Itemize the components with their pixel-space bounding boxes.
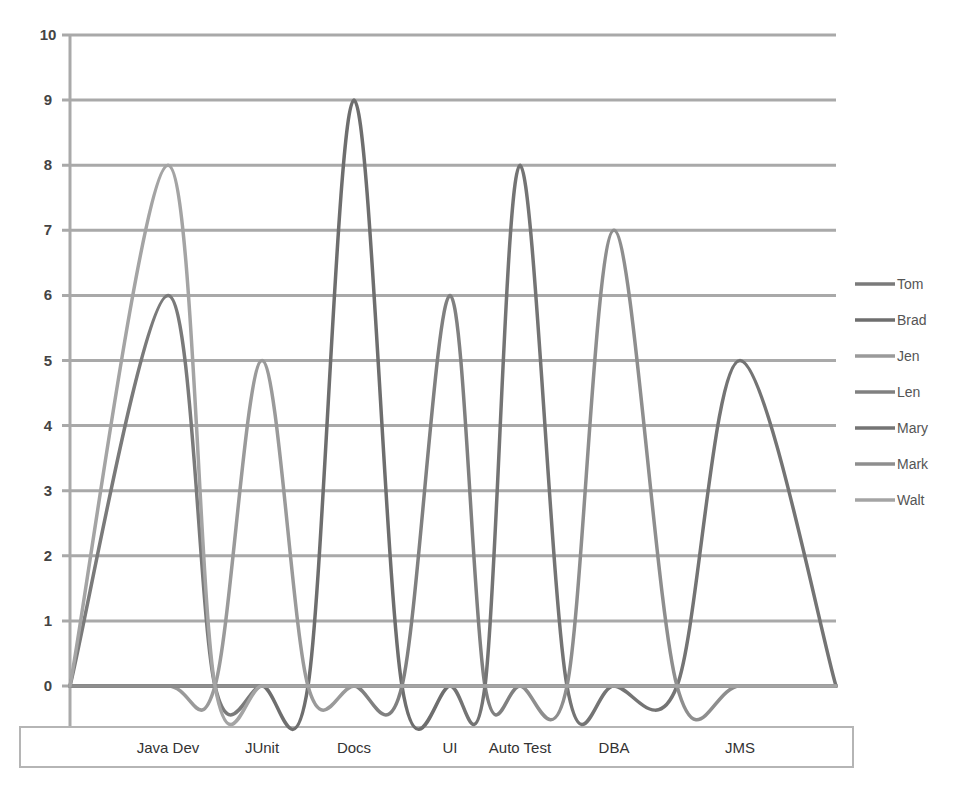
legend-label: Mary <box>897 420 928 436</box>
y-tick-label: 9 <box>44 91 52 108</box>
series-line-walt <box>70 165 836 724</box>
y-tick-label: 0 <box>44 677 52 694</box>
y-tick-label: 2 <box>44 547 52 564</box>
y-tick-label: 8 <box>44 156 52 173</box>
x-tick-label: Docs <box>337 739 371 756</box>
x-tick-label: JMS <box>725 739 755 756</box>
y-tick-label: 6 <box>44 286 52 303</box>
x-tick-label: Java Dev <box>137 739 200 756</box>
legend-label: Tom <box>897 276 923 292</box>
x-tick-label: JUnit <box>245 739 280 756</box>
legend-label: Jen <box>897 348 920 364</box>
series-lines <box>70 100 836 729</box>
series-line-tom <box>70 295 836 715</box>
x-tick-label: UI <box>443 739 458 756</box>
legend-item-walt: Walt <box>855 492 925 508</box>
line-chart: 012345678910 Java DevJUnitDocsUIAuto Tes… <box>0 0 963 794</box>
legend-item-brad: Brad <box>855 312 927 328</box>
y-axis-ticks: 012345678910 <box>40 26 57 694</box>
legend: TomBradJenLenMaryMarkWalt <box>855 276 929 508</box>
legend-label: Walt <box>897 492 925 508</box>
x-tick-label: Auto Test <box>489 739 552 756</box>
y-tick-label: 7 <box>44 221 52 238</box>
legend-item-mary: Mary <box>855 420 928 436</box>
y-tick-label: 5 <box>44 352 52 369</box>
y-tick-label: 10 <box>40 26 57 43</box>
legend-item-tom: Tom <box>855 276 923 292</box>
legend-item-jen: Jen <box>855 348 920 364</box>
legend-label: Mark <box>897 456 929 472</box>
x-tick-label: DBA <box>599 739 630 756</box>
legend-item-mark: Mark <box>855 456 929 472</box>
legend-label: Brad <box>897 312 927 328</box>
legend-item-len: Len <box>855 384 920 400</box>
gridlines <box>62 35 836 686</box>
y-tick-label: 4 <box>44 417 53 434</box>
legend-label: Len <box>897 384 920 400</box>
y-tick-label: 1 <box>44 612 52 629</box>
y-tick-label: 3 <box>44 482 52 499</box>
